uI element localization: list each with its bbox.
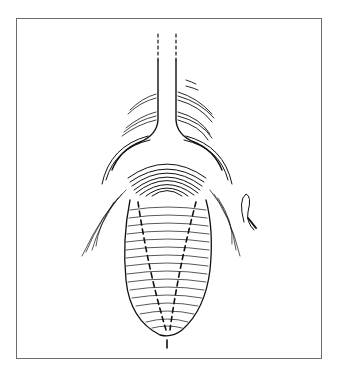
tissue-right [210,190,240,256]
organ-hatch [126,207,209,328]
surgical-illustration [0,0,337,374]
tissue-left [82,190,126,256]
stalk-dashes [158,34,176,60]
organ-outline [125,200,212,336]
suture-loop [241,194,256,230]
dome-hatch [128,164,206,196]
tissue-left-upper [122,94,156,136]
tissue-right-upper [178,80,214,140]
